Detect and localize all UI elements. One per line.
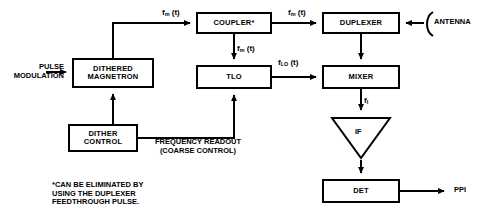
block-tlo-label: TLO xyxy=(226,73,242,81)
block-det[interactable]: DET xyxy=(322,179,400,203)
signal-suffix: (t) xyxy=(245,44,255,53)
block-dithered-magnetron-label: DITHERED MAGNETRON xyxy=(88,65,139,82)
wire-dither-control-to-tlo xyxy=(138,95,234,138)
signal-suffix: (t) xyxy=(170,8,180,17)
signal-label-flo-to-mixer: fLO (t) xyxy=(278,58,298,67)
block-mixer-label: MIXER xyxy=(349,73,374,81)
signal-subscript: m xyxy=(165,11,170,17)
label-footnote-coupler: *CAN BE ELIMINATED BY USING THE DUPLEXER… xyxy=(52,181,144,207)
block-mixer[interactable]: MIXER xyxy=(322,65,400,89)
label-ppi: PPI xyxy=(454,186,466,195)
signal-suffix: (t) xyxy=(296,8,306,17)
label-pulse-modulation: PULSE MODULATION xyxy=(4,63,64,80)
block-det-label: DET xyxy=(353,187,369,195)
signal-subscript: LO xyxy=(281,61,289,67)
signal-label-fm-to-tlo: fm (t) xyxy=(237,44,255,53)
signal-suffix: (t) xyxy=(288,58,298,67)
block-duplexer[interactable]: DUPLEXER xyxy=(322,12,400,34)
block-duplexer-label: DUPLEXER xyxy=(340,19,382,27)
block-coupler[interactable]: COUPLER* xyxy=(196,12,272,34)
wire-magnetron-to-coupler xyxy=(113,23,190,58)
signal-label-fm-coupler-output: fm (t) xyxy=(288,8,306,17)
block-dithered-magnetron[interactable]: DITHERED MAGNETRON xyxy=(72,58,154,88)
signal-label-fi-to-if: fI xyxy=(364,96,368,105)
block-tlo[interactable]: TLO xyxy=(196,65,272,89)
if-amplifier-label: IF xyxy=(355,127,362,136)
signal-label-fm-coupler-input: fm (t) xyxy=(162,8,180,17)
block-coupler-label: COUPLER* xyxy=(213,19,254,27)
radar-block-diagram: COUPLER* DUPLEXER TLO MIXER DITHERED MAG… xyxy=(0,0,486,221)
triangle-amplifier-icon[interactable] xyxy=(330,116,392,160)
signal-subscript: m xyxy=(240,47,245,53)
label-frequency-readout: FREQUENCY READOUT (COARSE CONTROL) xyxy=(142,138,254,155)
block-dither-control[interactable]: DITHER CONTROL xyxy=(68,124,138,152)
block-dither-control-label: DITHER CONTROL xyxy=(84,130,122,147)
signal-subscript: m xyxy=(291,11,296,17)
signal-subscript: I xyxy=(367,99,369,105)
label-antenna: ANTENNA xyxy=(434,18,471,27)
